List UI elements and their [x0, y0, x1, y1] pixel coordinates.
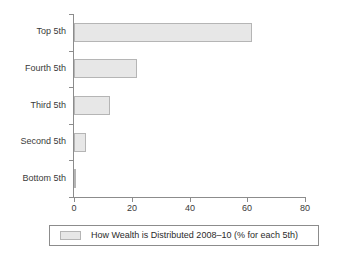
bar [74, 133, 86, 152]
category-label: Third 5th [30, 100, 66, 111]
bar [74, 23, 252, 42]
y-tick [69, 197, 73, 198]
x-tick [74, 198, 75, 202]
y-tick [69, 87, 73, 88]
legend-swatch-icon [60, 231, 81, 240]
y-tick [69, 51, 73, 52]
x-tick [190, 198, 191, 202]
category-label: Fourth 5th [25, 63, 66, 74]
y-tick [69, 160, 73, 161]
category-label: Bottom 5th [22, 173, 66, 184]
bar [74, 96, 110, 115]
x-tick-label: 20 [117, 203, 147, 214]
y-tick [69, 14, 73, 15]
x-tick-label: 0 [59, 203, 89, 214]
x-tick-label: 80 [290, 203, 320, 214]
bar [74, 169, 76, 188]
x-tick [305, 198, 306, 202]
x-tick-label: 60 [232, 203, 262, 214]
legend-label: How Wealth is Distributed 2008–10 (% for… [91, 230, 298, 241]
chart-legend: How Wealth is Distributed 2008–10 (% for… [49, 225, 319, 246]
y-tick [69, 124, 73, 125]
x-tick [132, 198, 133, 202]
bar [74, 59, 137, 78]
category-label: Second 5th [20, 136, 66, 147]
category-label: Top 5th [36, 26, 66, 37]
x-tick-label: 40 [175, 203, 205, 214]
x-tick [247, 198, 248, 202]
wealth-distribution-bar-chart: 020406080 Bottom 5thSecond 5thThird 5thF… [0, 0, 339, 260]
